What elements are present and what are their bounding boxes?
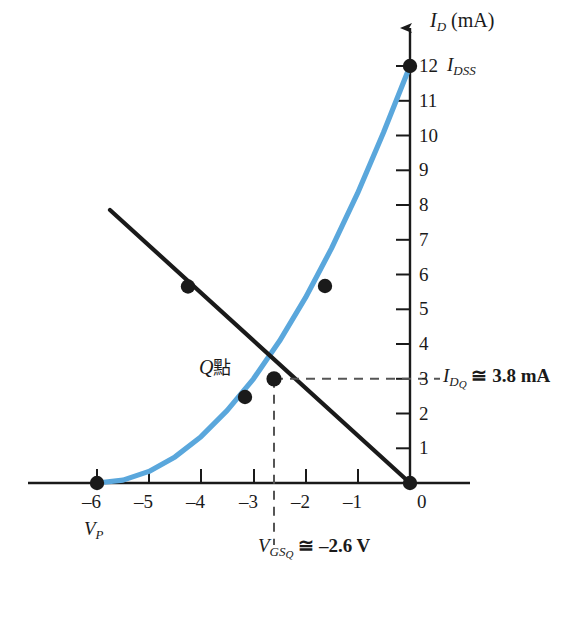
point-curve-upper — [318, 279, 332, 293]
x-tick-label-neg6: –6 — [82, 492, 101, 511]
y-axis-title-subscript: D — [437, 19, 446, 34]
vgsq-annotation: VGSQ ≅ –2.6 V — [258, 536, 370, 560]
idq-subscript2: Q — [459, 378, 467, 390]
y-axis-title-unit: (mA) — [451, 9, 494, 31]
y-tick-label-8: 8 — [419, 195, 429, 214]
point-loadline-upper — [181, 279, 195, 293]
point-curve-lower — [238, 390, 252, 404]
y-axis-title-symbol: I — [430, 9, 437, 31]
vp-subscript: P — [96, 527, 104, 542]
y-tick-label-5: 5 — [419, 299, 429, 318]
vgsq-value: ≅ –2.6 V — [298, 535, 370, 556]
x-tick-label-neg3: –3 — [239, 492, 258, 511]
y-tick-label-11: 11 — [419, 91, 437, 110]
q-point-annotation: Q點 — [199, 357, 231, 377]
q-point-cjk-label: 點 — [213, 357, 231, 378]
y-tick-label-2: 2 — [419, 404, 429, 423]
vp-symbol: V — [84, 518, 96, 539]
x-tick-label-neg1: –1 — [343, 492, 362, 511]
point-origin — [403, 476, 417, 490]
x-tick-label-neg4: –4 — [186, 492, 205, 511]
y-tick-label-12: 12 — [419, 56, 438, 75]
y-tick-label-1: 1 — [419, 438, 429, 457]
y-tick-label-3: 3 — [419, 369, 429, 388]
y-tick-label-7: 7 — [419, 230, 429, 249]
idss-subscript: DSS — [453, 63, 475, 78]
idq-value: ≅ 3.8 mA — [471, 365, 550, 386]
idss-annotation: IDSS — [447, 55, 476, 77]
vgsq-subscript: GS — [270, 544, 286, 559]
y-axis-title: ID (mA) — [430, 10, 494, 33]
point-idss — [403, 59, 417, 73]
y-tick-label-10: 10 — [419, 126, 438, 145]
idq-subscript: D — [449, 374, 458, 389]
transfer-curve — [97, 66, 410, 483]
point-q — [266, 371, 281, 386]
load-line — [110, 210, 410, 483]
x-tick-label-0: 0 — [417, 492, 427, 511]
x-tick-label-neg5: –5 — [134, 492, 153, 511]
idq-annotation: IDQ ≅ 3.8 mA — [443, 366, 550, 390]
x-tick-label-neg2: –2 — [291, 492, 310, 511]
vp-annotation: VP — [84, 519, 104, 541]
y-tick-label-6: 6 — [419, 265, 429, 284]
y-axis-ticks — [396, 66, 410, 448]
vgsq-symbol: V — [258, 535, 270, 556]
y-tick-label-9: 9 — [419, 160, 429, 179]
point-vp — [90, 476, 104, 490]
y-tick-label-4: 4 — [419, 334, 429, 353]
q-point-symbol: Q — [199, 356, 213, 378]
